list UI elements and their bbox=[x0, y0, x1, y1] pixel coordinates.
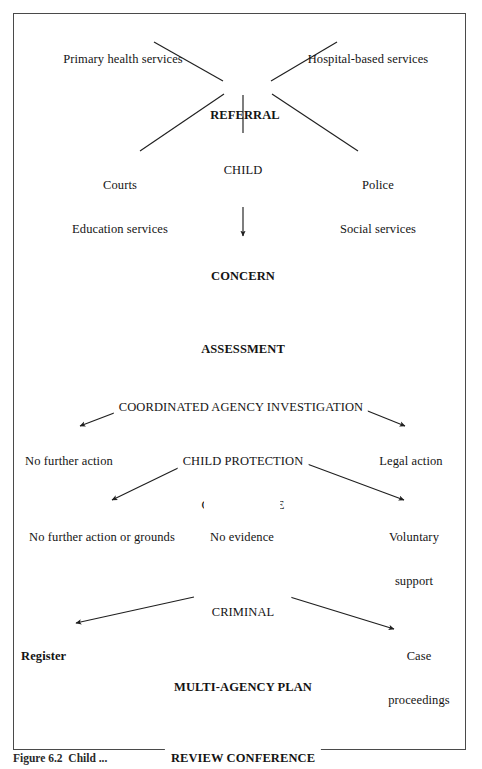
node-primary-health-services: Primary health services bbox=[63, 22, 183, 96]
node-label-line-1: Courts bbox=[72, 178, 168, 193]
node-label-line-2: Social services bbox=[340, 222, 416, 237]
node-label-line-1: CHILD PROTECTION bbox=[183, 454, 304, 469]
node-child: CHILD bbox=[218, 133, 269, 207]
node-police-social-services: Police Social services bbox=[340, 148, 416, 266]
node-label-line-1: Case bbox=[388, 649, 450, 664]
node-multi-agency-plan: MULTI-AGENCY PLAN bbox=[168, 650, 318, 724]
node-register: Register bbox=[21, 619, 66, 693]
node-voluntary-support: Voluntary support bbox=[389, 500, 439, 618]
node-label-line-1: CRIMINAL bbox=[199, 605, 286, 620]
node-courts-education-services: Courts Education services bbox=[72, 148, 168, 266]
node-review-conference: REVIEW CONFERENCE bbox=[165, 721, 321, 769]
node-label: ASSESSMENT bbox=[201, 342, 285, 357]
node-label: Primary health services bbox=[63, 52, 183, 67]
node-hospital-based-services: Hospital-based services bbox=[308, 22, 429, 96]
node-label: MULTI-AGENCY PLAN bbox=[174, 680, 312, 695]
node-label: Legal action bbox=[379, 454, 442, 469]
node-label-line-2: support bbox=[389, 574, 439, 589]
node-case-proceedings: Case proceedings bbox=[388, 619, 450, 737]
node-no-further-action: No further action bbox=[25, 424, 113, 498]
node-label-line-2: proceedings bbox=[388, 693, 450, 708]
node-label: REFERRAL bbox=[210, 108, 280, 123]
node-legal-action: Legal action bbox=[379, 424, 442, 498]
node-concern: CONCERN bbox=[205, 239, 281, 313]
node-label: CHILD bbox=[224, 163, 263, 178]
node-label: CONCERN bbox=[211, 269, 275, 284]
node-label: Register bbox=[21, 649, 66, 664]
node-label: REVIEW CONFERENCE bbox=[171, 751, 315, 766]
node-no-further-action-or-grounds: No further action or grounds bbox=[29, 500, 175, 574]
figure-caption: Figure 6.2 Child ... bbox=[13, 752, 107, 764]
node-label: Hospital-based services bbox=[308, 52, 429, 67]
node-label: COORDINATED AGENCY INVESTIGATION bbox=[119, 400, 363, 415]
node-label-line-1: Voluntary bbox=[389, 530, 439, 545]
node-no-evidence: No evidence bbox=[204, 500, 280, 574]
node-label: No further action bbox=[25, 454, 113, 469]
node-label-line-1: Police bbox=[340, 178, 416, 193]
node-label-line-2: Education services bbox=[72, 222, 168, 237]
node-label: No further action or grounds bbox=[29, 530, 175, 545]
node-label: No evidence bbox=[210, 530, 274, 545]
